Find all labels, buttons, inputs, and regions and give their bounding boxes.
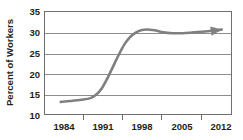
x-tick-label-2005: 2005 [162,122,202,132]
plot-area [44,11,232,115]
y-tick-label-20: 20 [16,70,40,80]
y-axis-tick-labels: 35 30 25 20 15 10 [16,0,40,140]
x-tick-mark-4 [201,115,202,120]
x-tick-mark-2 [122,115,123,120]
chart-container: Percent of Workers 35 30 25 20 15 10 198… [0,0,243,140]
x-tick-mark-3 [161,115,162,120]
y-axis-title-text: Percent of Workers [4,19,15,106]
trend-arrowhead-icon [210,27,222,36]
y-tick-label-15: 15 [16,90,40,100]
y-tick-label-25: 25 [16,49,40,59]
trend-line-path [61,29,222,101]
x-tick-label-1991: 1991 [83,122,123,132]
x-tick-mark-1 [83,115,84,120]
y-tick-label-35: 35 [16,7,40,17]
x-tick-label-2012: 2012 [201,122,241,132]
trend-line-series [45,12,233,116]
x-tick-label-1998: 1998 [122,122,162,132]
x-tick-label-1984: 1984 [44,122,84,132]
y-tick-label-30: 30 [16,28,40,38]
y-tick-label-10: 10 [16,111,40,121]
